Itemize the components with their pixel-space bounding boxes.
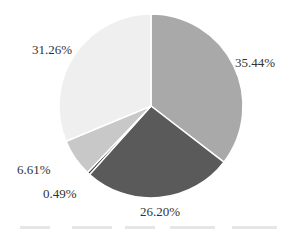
slice-label-0-49: 0.49% bbox=[43, 187, 77, 200]
slice-label-35-44: 35.44% bbox=[235, 56, 275, 69]
legend-cropped bbox=[0, 222, 285, 231]
slice-label-6-61: 6.61% bbox=[17, 163, 51, 176]
slice-label-26-20: 26.20% bbox=[140, 205, 180, 218]
pie-slices bbox=[59, 14, 243, 198]
slice-label-31-26: 31.26% bbox=[32, 43, 72, 56]
